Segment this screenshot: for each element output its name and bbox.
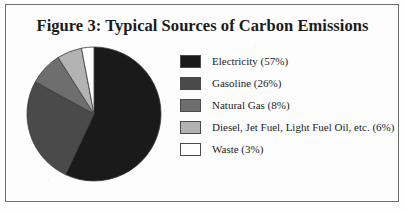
legend-item-natural-gas: Natural Gas (8%) <box>180 94 402 116</box>
figure-title: Figure 3: Typical Sources of Carbon Emis… <box>0 16 405 36</box>
legend-swatch <box>180 143 201 156</box>
legend-label: Electricity (57%) <box>212 55 288 67</box>
legend-swatch <box>180 55 201 68</box>
legend-label: Waste (3%) <box>212 143 263 155</box>
legend-swatch <box>180 99 201 112</box>
pie-chart <box>26 46 162 182</box>
chart-legend: Electricity (57%)Gasoline (26%)Natural G… <box>180 50 402 160</box>
legend-swatch <box>180 77 201 90</box>
legend-item-electricity: Electricity (57%) <box>180 50 402 72</box>
pie-chart-svg <box>26 46 162 182</box>
pie-slice-group <box>27 47 161 181</box>
legend-label: Natural Gas (8%) <box>212 99 290 111</box>
legend-item-waste: Waste (3%) <box>180 138 402 160</box>
legend-label: Gasoline (26%) <box>212 77 281 89</box>
legend-item-gasoline: Gasoline (26%) <box>180 72 402 94</box>
figure-container: Figure 3: Typical Sources of Carbon Emis… <box>0 0 405 212</box>
legend-label: Diesel, Jet Fuel, Light Fuel Oil, etc. (… <box>212 121 394 133</box>
legend-swatch <box>180 121 201 134</box>
legend-item-diesel: Diesel, Jet Fuel, Light Fuel Oil, etc. (… <box>180 116 402 138</box>
